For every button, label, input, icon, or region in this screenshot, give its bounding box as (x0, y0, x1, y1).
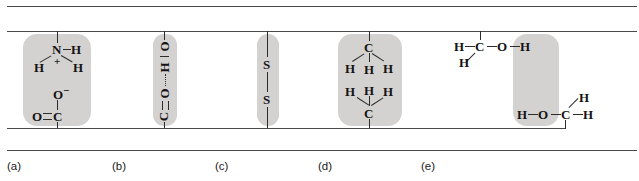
backbone-line-bottom-inner (112, 128, 226, 129)
bond-c-h-top-center (369, 53, 370, 62)
panel-caption-b: (b) (112, 160, 126, 172)
atom-sulfur-bottom: S (262, 92, 271, 107)
atom-hydrogen-lower-right: H (73, 61, 83, 74)
atom-hydrogen-top-below: H (459, 56, 469, 69)
backbone-line-bottom-outer (112, 150, 226, 151)
backbone-line-top-inner (425, 31, 637, 32)
bond-stub-bottom (565, 120, 566, 129)
backbone-line-bottom-outer (318, 150, 432, 151)
backbone-line-bottom-inner (425, 128, 566, 129)
protein-interactions-figure: N H + H H O − C O (a) O H (0, 0, 639, 181)
backbone-line-bottom-outer (7, 150, 121, 151)
backbone-line-top-inner (318, 31, 432, 32)
bond-hydrogen-dotted (165, 74, 166, 86)
backbone-line-top-outer (112, 6, 226, 7)
atom-hydrogen-top-left: H (345, 62, 355, 75)
bond-c-h-bottom (573, 114, 583, 115)
atom-oxygen-double: O (32, 110, 42, 123)
atom-hydrogen-bottom-above: H (579, 91, 589, 104)
atom-hydrogen-bottom-right: H (383, 85, 393, 98)
backbone-line-bottom-outer (425, 150, 637, 151)
backbone-line-top-outer (318, 6, 432, 7)
charge-positive: + (54, 56, 60, 67)
atom-oxygen-donor: O (158, 41, 171, 51)
atom-hydrogen-top-left: H (454, 40, 464, 53)
bond-c-o-top (487, 46, 497, 47)
bond-o-h (160, 56, 169, 57)
atom-hydrogen-bottom-left: H (517, 108, 527, 121)
atom-hydrogen-left: H (34, 61, 44, 74)
backbone-line-bottom-inner (7, 128, 121, 129)
panel-caption-d: (d) (318, 160, 332, 172)
panel-caption-a: (a) (7, 160, 21, 172)
atom-oxygen-top: O (497, 40, 507, 53)
atom-hydrogen-top-right: H (383, 62, 393, 75)
bond-h-o-bottom (528, 114, 538, 115)
backbone-line-top-outer (7, 6, 121, 7)
backbone-line-bottom-outer (215, 150, 329, 151)
panel-caption-e: (e) (421, 160, 435, 172)
backbone-line-top-outer (425, 6, 637, 7)
atom-hydrogen-bottom-right: H (583, 108, 593, 121)
atom-carbon: C (157, 112, 170, 121)
panel-caption-c: (c) (215, 160, 228, 172)
bond-stub-top (164, 31, 165, 40)
bond-o-h-top (510, 46, 520, 47)
backbone-line-top-inner (112, 31, 226, 32)
bond-h-c-top (465, 46, 475, 47)
atom-hydrogen-top-center: H (364, 63, 374, 76)
bond-double-c-o (162, 101, 169, 110)
backbone-line-bottom-inner (215, 128, 329, 129)
atom-hydrogen-right: H (71, 43, 81, 56)
atom-oxygen-bottom: O (538, 108, 548, 121)
backbone-line-top-inner (215, 31, 329, 32)
bond-double-c-o (43, 113, 52, 120)
bond-n-h-right (63, 49, 71, 50)
atom-hydrogen: H (158, 62, 171, 72)
atom-carbon-top: C (475, 40, 484, 53)
charge-negative: − (63, 85, 69, 96)
backbone-line-top-outer (215, 6, 329, 7)
atom-hydrogen-bottom-left: H (345, 85, 355, 98)
atom-oxygen-acceptor: O (158, 88, 171, 98)
panel-e-hydroxyl-hydrogen-bond: H C O H H H O C H H (e) (417, 0, 639, 181)
bond-c-h-above-bottom (569, 98, 579, 108)
bond-disulfide-line (267, 31, 268, 129)
bond-o-c-bottom (551, 114, 561, 115)
atom-hydrogen-top-right: H (520, 40, 530, 53)
backbone-line-bottom-inner (318, 128, 432, 129)
panel-a-ionic-bond: N H + H H O − C O (a) (3, 0, 125, 181)
backbone-line-top-inner (7, 31, 121, 32)
atom-sulfur-top: S (262, 57, 271, 72)
